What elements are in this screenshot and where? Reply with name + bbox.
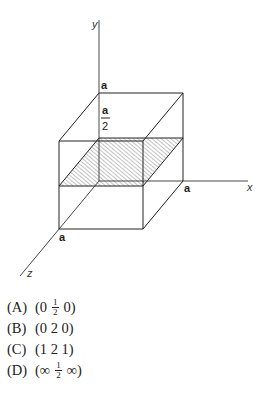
index-h: (∞	[35, 362, 50, 379]
x-axis-label: x	[246, 181, 253, 193]
miller-plane-diagram: y x z a a 2 a a	[0, 0, 271, 290]
choice-letter: (C)	[7, 341, 35, 358]
fraction-one-half: 1 2	[55, 361, 62, 380]
choice-c[interactable]: (C) (1 2 1)	[7, 339, 82, 360]
x-intercept-label: a	[184, 182, 191, 194]
choice-letter: (B)	[7, 320, 35, 337]
choice-a[interactable]: (A) (0 1 2 0)	[7, 297, 82, 318]
choice-letter: (A)	[7, 299, 35, 316]
z-intercept-label: a	[59, 231, 66, 243]
y-intercept-label: a	[101, 79, 108, 91]
choice-d[interactable]: (D) (∞ 1 2 ∞)	[7, 360, 82, 381]
choice-text: (0 1 2 0)	[35, 298, 76, 317]
half-a-denominator: 2	[102, 120, 108, 132]
choice-b[interactable]: (B) (0 2 0)	[7, 318, 82, 339]
y-axis-label: y	[91, 18, 99, 30]
half-a-numerator: a	[102, 104, 109, 116]
index-l: 0)	[64, 299, 76, 316]
z-axis-label: z	[26, 267, 33, 279]
index-h: (0	[35, 299, 47, 316]
choice-text: (∞ 1 2 ∞)	[35, 361, 82, 380]
choice-text: (1 2 1)	[35, 341, 74, 358]
choice-letter: (D)	[7, 362, 35, 379]
index-l: ∞)	[67, 362, 82, 379]
fraction-one-half: 1 2	[52, 298, 59, 317]
hatched-plane	[59, 138, 183, 186]
choice-text: (0 2 0)	[35, 320, 74, 337]
answer-choices: (A) (0 1 2 0) (B) (0 2 0) (C) (1 2 1) (D…	[7, 297, 82, 381]
